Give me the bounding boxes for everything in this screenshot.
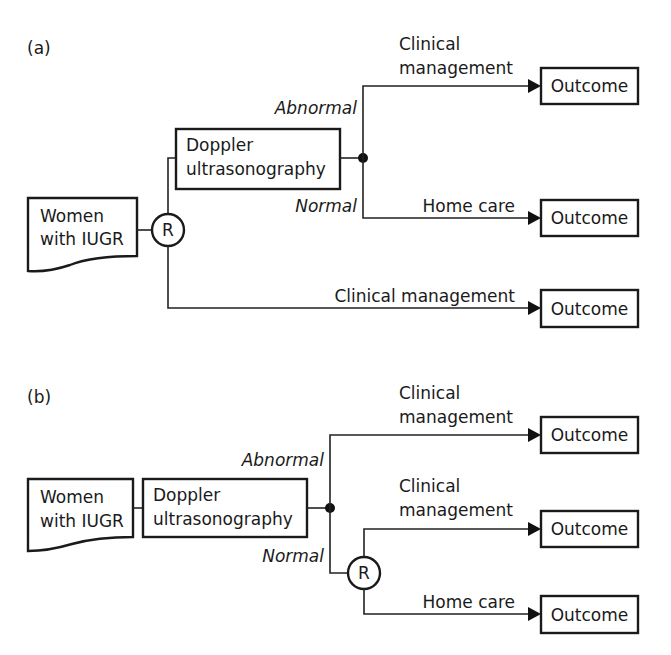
panel-b-population-line2: with IUGR — [40, 511, 124, 531]
panel-a-population-node: Women with IUGR — [28, 198, 137, 271]
panel-a-randomization-label: R — [162, 220, 174, 240]
panel-b-branch3-label: Home care — [423, 592, 515, 612]
panel-b-outcome-2: Outcome — [541, 511, 638, 547]
panel-b-outcome-3-label: Outcome — [551, 605, 629, 625]
panel-a-doppler-line2: ultrasonography — [186, 159, 326, 179]
panel-a-outcome-3: Outcome — [541, 290, 638, 327]
panel-a: (a) Women with IUGR R Doppler ultrasonog… — [27, 34, 638, 327]
panel-a-doppler-node: Doppler ultrasonography — [176, 129, 340, 189]
panel-b-population-line1: Women — [40, 487, 104, 507]
panel-a-population-line2: with IUGR — [40, 229, 124, 249]
panel-a-outcome-1-label: Outcome — [551, 76, 629, 96]
panel-a-population-line1: Women — [40, 206, 104, 226]
panel-b-doppler-node: Doppler ultrasonography — [143, 479, 307, 537]
panel-b-doppler-line1: Doppler — [153, 485, 220, 505]
panel-b-branch1-label-line2: management — [399, 407, 513, 427]
panel-a-outcome-1: Outcome — [541, 68, 638, 104]
panel-b-doppler-line2: ultrasonography — [153, 509, 293, 529]
panel-b-outcome-1: Outcome — [541, 417, 638, 453]
panel-b-branch2-label-line2: management — [399, 500, 513, 520]
panel-b-outcome-1-label: Outcome — [551, 425, 629, 445]
panel-b-branch2-label-line1: Clinical — [399, 476, 460, 496]
panel-a-label: (a) — [27, 38, 51, 58]
panel-b-abnormal-label: Abnormal — [241, 450, 325, 470]
trial-design-diagram: (a) Women with IUGR R Doppler ultrasonog… — [0, 0, 671, 655]
panel-b-outcome-3: Outcome — [541, 596, 638, 633]
panel-b-population-node: Women with IUGR — [28, 479, 133, 551]
panel-a-doppler-line1: Doppler — [186, 135, 253, 155]
panel-a-branch1-label-line1: Clinical — [399, 34, 460, 54]
panel-a-randomization-node: R — [152, 214, 184, 246]
panel-b-normal-label: Normal — [262, 546, 324, 566]
panel-b-outcome-2-label: Outcome — [551, 519, 629, 539]
panel-b-randomization-node: R — [348, 557, 380, 589]
panel-b-randomization-label: R — [358, 563, 370, 583]
panel-a-outcome-2: Outcome — [541, 200, 638, 236]
panel-a-branch3-label: Clinical management — [334, 286, 515, 306]
panel-b-branch1-label-line1: Clinical — [399, 383, 460, 403]
panel-a-abnormal-label: Abnormal — [274, 98, 358, 118]
panel-a-normal-label: Normal — [295, 196, 357, 216]
panel-b-label: (b) — [27, 387, 51, 407]
panel-b: (b) Women with IUGR Doppler ultrasonogra… — [27, 383, 638, 633]
panel-a-outcome-3-label: Outcome — [551, 299, 629, 319]
panel-a-branch2-label: Home care — [423, 196, 515, 216]
panel-a-outcome-2-label: Outcome — [551, 208, 629, 228]
panel-a-branch1-label-line2: management — [399, 58, 513, 78]
